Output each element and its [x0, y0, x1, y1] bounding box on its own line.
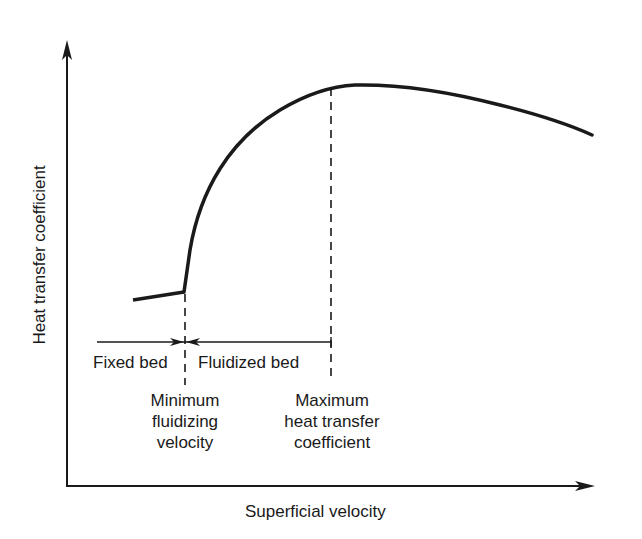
- min-fluidizing-line-1: Minimum: [135, 390, 235, 411]
- fluidized-bed-label: Fluidized bed: [198, 352, 299, 373]
- y-axis: [62, 40, 72, 486]
- fixed-bed-curve: [133, 292, 184, 300]
- x-axis-label: Superficial velocity: [245, 502, 386, 522]
- x-axis: [66, 481, 595, 491]
- max-htc-line-3: coefficient: [270, 432, 394, 453]
- max-htc-line-1: Maximum: [270, 390, 394, 411]
- min-fluidizing-line-3: velocity: [135, 432, 235, 453]
- min-fluidizing-annotation: Minimum fluidizing velocity: [135, 390, 235, 453]
- min-fluidizing-line-2: fluidizing: [135, 411, 235, 432]
- max-htc-annotation: Maximum heat transfer coefficient: [270, 390, 394, 453]
- diagram-canvas: [0, 0, 642, 539]
- region-bracket: [97, 337, 331, 347]
- fixed-bed-label: Fixed bed: [93, 352, 168, 373]
- max-htc-line-2: heat transfer: [270, 411, 394, 432]
- y-axis-label: Heat transfer coefficient: [30, 165, 50, 344]
- fluidized-bed-curve: [184, 85, 592, 292]
